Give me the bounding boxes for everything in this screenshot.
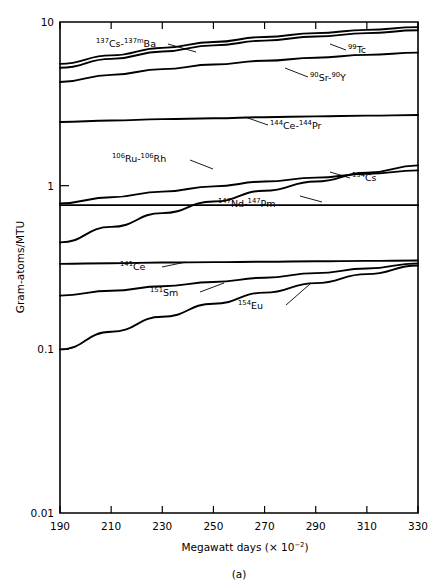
- leader-line-90Sr-90Y: [285, 68, 308, 77]
- x-axis-tick-labels: 190210230250270290310330: [50, 520, 428, 532]
- x-tick-label: 250: [203, 520, 223, 532]
- y-tick-label: 0.01: [31, 507, 54, 519]
- y-axis-tick-labels: 1010.10.01: [31, 16, 54, 519]
- leader-line-106Ru-106Rh: [190, 160, 213, 169]
- curve-label-99Tc: 99Tc: [348, 43, 366, 55]
- axes-frame: [60, 22, 418, 513]
- curve-label-154Eu: 154Eu: [238, 299, 263, 311]
- curve-labels: 137Cs-137mBa99Tc90Sr-90Y144Ce-144Pr106Ru…: [96, 37, 377, 311]
- y-tick-label: 0.1: [37, 343, 54, 355]
- curve-151Sm: [60, 263, 418, 295]
- x-tick-label: 290: [306, 520, 326, 532]
- x-axis-title: Megawatt days (× 10−2): [181, 541, 308, 553]
- curve-label-106Ru-106Rh: 106Ru-106Rh: [112, 152, 166, 164]
- curve-label-144Ce-144Pr: 144Ce-144Pr: [270, 119, 321, 131]
- y-tick-label: 10: [41, 16, 54, 28]
- x-tick-label: 330: [408, 520, 428, 532]
- curve-label-141Ce: 141Ce: [120, 260, 146, 272]
- curve-label-137Cs-137mBa: 137Cs-137mBa: [96, 37, 156, 49]
- y-tick-label: 1: [47, 180, 54, 192]
- figure-container: 190210230250270290310330 1010.10.01 137C…: [0, 0, 437, 588]
- leader-line-99Tc: [330, 44, 346, 50]
- x-tick-label: 310: [357, 520, 377, 532]
- leader-line-147Nd-147Pm: [300, 196, 322, 202]
- curve-label-90Sr-90Y: 90Sr-90Y: [310, 71, 346, 83]
- x-tick-label: 270: [255, 520, 275, 532]
- y-axis-title: Gram-atoms/MTU: [14, 221, 26, 313]
- x-axis-ticks: [60, 22, 418, 513]
- y-axis-ticks: [60, 186, 69, 350]
- curve-label-147Nd-147Pm: 147Nd-147Pm: [218, 197, 276, 209]
- curve-141Ce: [60, 260, 418, 263]
- figure-caption: (a): [232, 568, 247, 580]
- leader-line-151Sm: [200, 283, 224, 292]
- label-leader-lines: [162, 44, 350, 305]
- x-tick-label: 190: [50, 520, 70, 532]
- x-tick-label: 210: [101, 520, 121, 532]
- curve-label-151Sm: 151Sm: [150, 286, 178, 298]
- curve-label-134Cs: 134Cs: [352, 171, 377, 183]
- curve-154Eu: [60, 266, 418, 350]
- semilog-line-chart: 190210230250270290310330 1010.10.01 137C…: [0, 0, 437, 588]
- plot-border: [60, 22, 418, 513]
- curve-144Ce-144Pr: [60, 115, 418, 122]
- x-tick-label: 230: [152, 520, 172, 532]
- curve-90Sr-90Y: [60, 53, 418, 82]
